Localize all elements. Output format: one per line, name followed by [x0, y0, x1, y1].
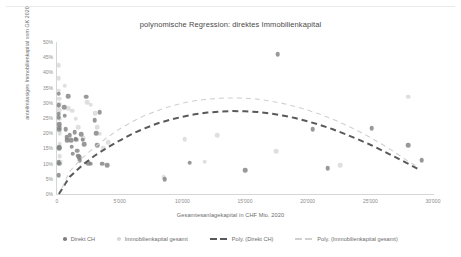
legend-item[interactable]: Poly. (Immobilienkapital gesamt) — [295, 236, 397, 242]
y-tick-label: 0% — [46, 191, 53, 197]
y-tick-label: 5% — [46, 176, 53, 182]
legend-item[interactable]: Immobilienkapital gesamt — [117, 236, 188, 242]
y-tick-label: 15% — [43, 145, 53, 151]
y-tick-label: 45% — [43, 54, 53, 60]
legend-item[interactable]: Poly. (Direkt CH) — [210, 236, 274, 242]
y-axis-title: anteilmässiges Immobilienkapital vom GK … — [24, 0, 30, 143]
y-tick-label: 50% — [43, 39, 53, 45]
y-tick-label: 40% — [43, 69, 53, 75]
chart-legend: Direkt CHImmobilienkapital gesamtPoly. (… — [0, 236, 461, 242]
legend-dot-icon — [63, 237, 67, 241]
plot-area: 0%5%10%15%20%25%30%35%40%45%50% 05'00010… — [57, 42, 433, 194]
x-tick-label: 25'000 — [363, 198, 378, 204]
trendline — [62, 98, 415, 188]
legend-item[interactable]: Direkt CH — [63, 236, 95, 242]
legend-label: Direkt CH — [71, 236, 95, 242]
y-tick-label: 25% — [43, 115, 53, 121]
chart-container: polynomische Regression: direktes Immobi… — [0, 0, 461, 257]
x-axis-title: Gesamtesanlagekapital in CHF Mio. 2020 — [0, 212, 461, 218]
x-tick-label: 5'000 — [114, 198, 126, 204]
trendline-layer — [57, 42, 433, 194]
x-tick-label: 0 — [56, 198, 59, 204]
y-tick-label: 10% — [43, 161, 53, 167]
y-tick-label: 30% — [43, 100, 53, 106]
x-tick-label: 15'000 — [238, 198, 253, 204]
x-axis-line — [56, 194, 434, 195]
x-tick-label: 20'000 — [300, 198, 315, 204]
trendline — [59, 111, 421, 194]
legend-label: Immobilienkapital gesamt — [125, 236, 188, 242]
y-tick-label: 20% — [43, 130, 53, 136]
x-tick-label: 10'000 — [175, 198, 190, 204]
legend-label: Poly. (Direkt CH) — [232, 236, 274, 242]
x-tick-label: 30'000 — [426, 198, 441, 204]
y-tick-label: 35% — [43, 85, 53, 91]
chart-title: polynomische Regression: direktes Immobi… — [0, 20, 461, 29]
legend-label: Poly. (Immobilienkapital gesamt) — [317, 236, 397, 242]
legend-dot-icon — [117, 237, 121, 241]
